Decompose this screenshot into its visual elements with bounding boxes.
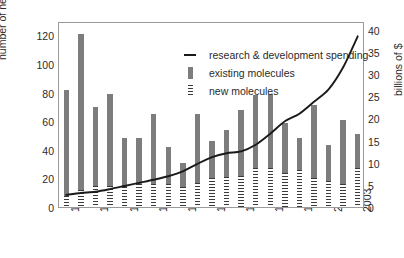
legend-item-research-spending: research & development spending [181, 47, 368, 63]
plot-frame: research & development spending existing… [58, 22, 364, 208]
bar-group [78, 21, 84, 207]
bar-new-molecules [340, 184, 346, 207]
y-axis-left-tick-label: 0 [14, 203, 54, 213]
bar-new-molecules [64, 196, 70, 207]
chart-container: number of new products billions of $ 020… [0, 0, 404, 258]
y-axis-right-tick-label: 10 [368, 159, 402, 169]
bar-group [93, 21, 99, 207]
bar-new-molecules [297, 170, 303, 207]
line-swatch-icon [181, 54, 199, 56]
dashed-bar-swatch-icon [181, 85, 199, 97]
y-axis-right-tick-label: 15 [368, 137, 402, 147]
legend-label: existing molecules [209, 67, 295, 79]
bar-new-molecules [282, 173, 288, 207]
bar-new-molecules [238, 176, 244, 207]
legend-item-existing-molecules: existing molecules [181, 65, 368, 81]
bar-swatch-icon [181, 67, 199, 79]
bar-new-molecules [224, 177, 230, 207]
y-axis-right-tick-label: 30 [368, 70, 402, 80]
y-axis-right-tick-label: 35 [368, 48, 402, 58]
bar-new-molecules [311, 178, 317, 207]
y-axis-left-tick-label: 100 [14, 60, 54, 70]
bar-new-molecules [93, 186, 99, 207]
y-axis-right-tick-label: 0 [368, 203, 402, 213]
bar-new-molecules [355, 168, 361, 207]
bar-new-molecules [136, 184, 142, 207]
bar-new-molecules [78, 190, 84, 207]
bar-group [107, 21, 113, 207]
bar-new-molecules [107, 186, 113, 207]
y-axis-right-tick-label: 20 [368, 114, 402, 124]
legend-label: research & development spending [209, 49, 368, 61]
bar-group [136, 21, 142, 207]
y-axis-right-tick-label: 25 [368, 92, 402, 102]
y-axis-right-tick-label: 5 [368, 181, 402, 191]
bar-existing-molecules [64, 90, 70, 207]
bar-new-molecules [195, 183, 201, 207]
bar-group [166, 21, 172, 207]
y-axis-left-tick-label: 20 [14, 174, 54, 184]
y-axis-left-tick-label: 40 [14, 146, 54, 156]
bar-new-molecules [253, 168, 259, 207]
bar-new-molecules [180, 187, 186, 207]
y-axis-left-title: number of new products [0, 0, 8, 60]
bar-group [122, 21, 128, 207]
bar-new-molecules [166, 184, 172, 207]
bar-new-molecules [268, 168, 274, 207]
bar-new-molecules [151, 184, 157, 207]
chart-legend: research & development spending existing… [181, 47, 368, 101]
y-axis-left-tick-label: 80 [14, 89, 54, 99]
bar-existing-molecules [78, 34, 84, 207]
bar-new-molecules [326, 181, 332, 207]
y-axis-left-tick-label: 60 [14, 117, 54, 127]
bar-new-molecules [122, 187, 128, 207]
legend-label: new molecules [209, 85, 278, 97]
y-axis-left-tick-label: 120 [14, 31, 54, 41]
bar-group [64, 21, 70, 207]
bar-group [151, 21, 157, 207]
bar-new-molecules [209, 178, 215, 207]
legend-item-new-molecules: new molecules [181, 83, 368, 99]
y-axis-right-tick-label: 40 [368, 26, 402, 36]
